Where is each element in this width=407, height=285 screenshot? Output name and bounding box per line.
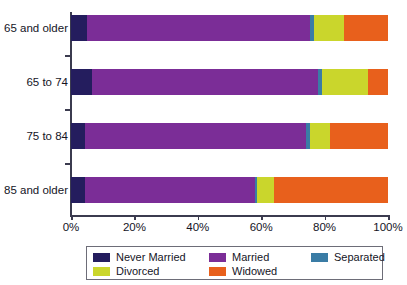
y-axis-label: 85 and older (0, 184, 68, 196)
bar-segment-widowed (368, 69, 388, 95)
legend-item-separated: Separated (311, 251, 385, 263)
x-axis-tick-label: 100% (366, 221, 407, 233)
x-axis-tick (198, 215, 200, 220)
legend-label-separated: Separated (334, 251, 385, 263)
y-axis-tick (65, 55, 70, 57)
bar-row (71, 69, 388, 95)
x-axis-tick-label: 60% (239, 221, 283, 233)
bar-segment-married (87, 15, 310, 41)
legend-swatch-divorced (93, 267, 110, 276)
bar-segment-divorced (257, 177, 274, 203)
bar-segment-never-married (71, 177, 85, 203)
bar-segment-married (85, 123, 305, 149)
legend-label-married: Married (232, 251, 269, 263)
x-axis-tick (134, 215, 136, 220)
legend-label-divorced: Divorced (116, 265, 159, 277)
bar-segment-widowed (344, 15, 388, 41)
bar-segment-divorced (310, 123, 330, 149)
y-axis-label: 75 to 84 (0, 130, 68, 142)
legend-item-married: Married (209, 251, 311, 263)
bar-segment-never-married (71, 123, 85, 149)
legend-label-widowed: Widowed (232, 265, 277, 277)
x-axis-tick (71, 215, 73, 220)
bar-segment-never-married (71, 69, 92, 95)
bar-segment-never-married (71, 15, 87, 41)
legend-swatch-married (209, 253, 226, 262)
legend-grid: Never Married Married Separated Divorced… (93, 250, 378, 278)
legend-swatch-widowed (209, 267, 226, 276)
bar-segment-divorced (322, 69, 368, 95)
bar-row (71, 123, 388, 149)
x-axis-line (70, 215, 388, 217)
plot-area (71, 12, 388, 215)
x-axis-tick-label: 80% (303, 221, 347, 233)
x-axis-tick (325, 215, 327, 220)
bar-row (71, 15, 388, 41)
legend-item-widowed: Widowed (209, 265, 311, 277)
bar-segment-widowed (274, 177, 388, 203)
bar-segment-married (92, 69, 318, 95)
x-axis-tick-label: 40% (176, 221, 220, 233)
legend-item-divorced: Divorced (93, 265, 209, 277)
legend-swatch-never-married (93, 253, 110, 262)
y-axis-label: 65 and older (0, 22, 68, 34)
bar-row (71, 177, 388, 203)
x-axis-tick (388, 215, 390, 220)
bar-segment-widowed (330, 123, 388, 149)
x-axis-tick-label: 0% (49, 221, 93, 233)
x-axis-tick (261, 215, 263, 220)
y-axis-tick (65, 109, 70, 111)
bar-segment-married (85, 177, 255, 203)
x-axis-tick-label: 20% (112, 221, 156, 233)
legend-swatch-separated (311, 253, 328, 262)
legend-item-never-married: Never Married (93, 251, 209, 263)
bar-segment-divorced (314, 15, 344, 41)
y-axis-label: 65 to 74 (0, 76, 68, 88)
chart-legend: Never Married Married Separated Divorced… (86, 246, 383, 280)
y-axis-tick (65, 163, 70, 165)
legend-label-never-married: Never Married (116, 251, 186, 263)
